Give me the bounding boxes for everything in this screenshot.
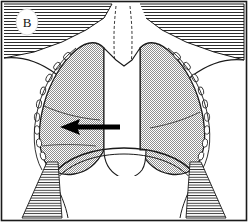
mediastinum-heart (104, 48, 146, 178)
panel-label-text: B (23, 15, 32, 30)
panel-label: B (16, 9, 38, 35)
figure-panel: B (0, 0, 248, 222)
chest-radiograph-illustration: B (0, 0, 248, 222)
subdiaphragmatic-space (52, 176, 196, 218)
